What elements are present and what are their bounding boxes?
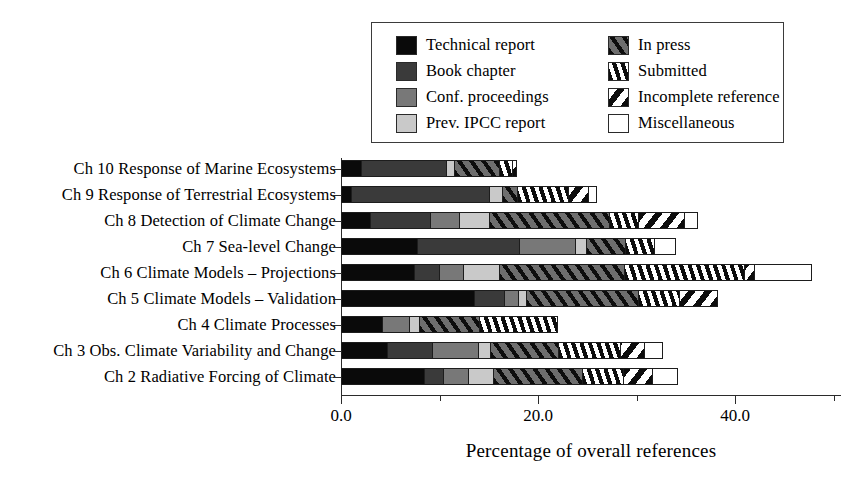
swatch-empty-white-icon <box>608 114 629 133</box>
bar-segment-inpress <box>503 186 519 203</box>
swatch-vertical-hatch-icon <box>608 62 629 81</box>
legend-label: Incomplete reference <box>638 89 780 106</box>
swatch-back-diagonal-hatch-icon <box>608 88 629 107</box>
bar-segment-inpress <box>455 160 499 177</box>
bar-segment-ipcc <box>576 238 587 255</box>
bar-segment-inpress <box>527 290 639 307</box>
x-axis-line <box>341 395 841 396</box>
bar-segment-incomplete <box>513 160 517 177</box>
bar-segment-ipcc <box>469 368 494 385</box>
x-axis-tick-label: 20.0 <box>523 406 553 426</box>
x-axis-title: Percentage of overall references <box>341 440 841 462</box>
bar-segment-technical <box>341 186 352 203</box>
swatch-solid-dark-gray-icon <box>396 62 417 81</box>
bar-segment-book <box>352 186 490 203</box>
legend-item-miscellaneous: Miscellaneous <box>608 114 809 133</box>
bar-segment-incomplete <box>639 212 684 229</box>
y-axis-tick <box>333 325 342 326</box>
x-axis-tick-label: 0.0 <box>330 406 351 426</box>
bar-segment-book <box>418 238 520 255</box>
bar-segment-submitted <box>625 264 745 281</box>
y-axis-label: Ch 6 Climate Models – Projections <box>6 265 336 282</box>
bar-segment-ipcc <box>490 186 503 203</box>
bar-row <box>341 212 698 229</box>
bar-segment-submitted <box>583 368 623 385</box>
bar-segment-inpress <box>587 238 625 255</box>
legend-item-in-press: In press <box>608 36 809 55</box>
legend-label: Book chapter <box>426 63 516 80</box>
y-axis-tick <box>333 247 342 248</box>
swatch-solid-light-gray-icon <box>396 114 417 133</box>
bar-segment-technical <box>341 212 371 229</box>
bar-segment-technical <box>341 316 383 333</box>
x-axis-tick-minor <box>637 395 638 401</box>
bar-segment-misc <box>653 368 678 385</box>
bar-segment-submitted <box>559 342 621 359</box>
y-axis-tick <box>333 195 342 196</box>
legend-label: Prev. IPCC report <box>426 115 545 132</box>
y-axis-tick <box>333 221 342 222</box>
bar-row <box>341 342 663 359</box>
y-axis-label: Ch 4 Climate Processes <box>6 317 336 334</box>
bar-row <box>341 264 812 281</box>
bar-segment-book <box>425 368 445 385</box>
legend-item-prev-ipcc-report: Prev. IPCC report <box>396 114 608 133</box>
x-axis-tick-major <box>341 395 342 404</box>
bar-segment-incomplete <box>745 264 755 281</box>
bar-segment-submitted <box>518 186 569 203</box>
bar-segment-incomplete <box>621 342 646 359</box>
swatch-solid-black-icon <box>396 36 417 55</box>
bar-segment-misc <box>589 186 597 203</box>
legend-item-conf-proceedings: Conf. proceedings <box>396 88 608 107</box>
x-axis-tick-label: 40.0 <box>720 406 750 426</box>
y-axis-labels: Ch 10 Response of Marine EcosystemsCh 9 … <box>0 158 336 396</box>
chart-legend: Technical report In press Book chapter S… <box>371 22 784 143</box>
bar-segment-technical <box>341 368 425 385</box>
bar-segment-book <box>371 212 431 229</box>
bar-segment-inpress <box>500 264 625 281</box>
bar-segment-conf <box>440 264 465 281</box>
bar-segment-technical <box>341 342 388 359</box>
bar-segment-submitted <box>500 160 514 177</box>
bar-row <box>341 368 678 385</box>
bar-segment-submitted <box>626 238 656 255</box>
bar-segment-submitted <box>480 316 558 333</box>
bar-segment-book <box>388 342 432 359</box>
y-axis-tick <box>333 377 342 378</box>
y-axis-label: Ch 8 Detection of Climate Change <box>6 213 336 230</box>
bar-segment-submitted <box>610 212 640 229</box>
bar-segment-conf <box>383 316 410 333</box>
bar-segment-conf <box>444 368 469 385</box>
y-axis-label: Ch 9 Response of Terrestrial Ecosystems <box>6 187 336 204</box>
bar-segment-submitted <box>639 290 679 307</box>
bar-segment-book <box>415 264 440 281</box>
legend-label: In press <box>638 37 691 54</box>
bar-row <box>341 290 718 307</box>
legend-grid: Technical report In press Book chapter S… <box>396 32 783 136</box>
bar-segment-ipcc <box>410 316 420 333</box>
legend-item-submitted: Submitted <box>608 62 809 81</box>
bar-row <box>341 160 517 177</box>
bar-segment-technical <box>341 160 362 177</box>
bar-row <box>341 186 597 203</box>
legend-label: Submitted <box>638 63 707 80</box>
y-axis-label: Ch 5 Climate Models – Validation <box>6 291 336 308</box>
y-axis-tick <box>333 169 342 170</box>
x-axis-tick-major <box>735 395 736 404</box>
bar-segment-ipcc <box>460 212 490 229</box>
x-axis-tick-major <box>538 395 539 404</box>
bar-segment-conf <box>505 290 520 307</box>
swatch-diagonal-hatch-icon <box>608 36 629 55</box>
y-axis-tick <box>333 273 342 274</box>
legend-label: Miscellaneous <box>638 115 735 132</box>
bar-segment-conf <box>520 238 576 255</box>
legend-label: Conf. proceedings <box>426 89 549 106</box>
bar-segment-technical <box>341 264 415 281</box>
y-axis-tick <box>333 351 342 352</box>
bar-chart: Technical report In press Book chapter S… <box>0 0 858 485</box>
bar-segment-inpress <box>420 316 480 333</box>
bar-segment-incomplete <box>624 368 654 385</box>
bar-segment-misc <box>685 212 698 229</box>
bar-segment-book <box>475 290 505 307</box>
bar-segment-incomplete <box>680 290 718 307</box>
